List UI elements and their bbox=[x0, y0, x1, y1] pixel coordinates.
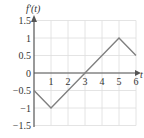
y-tick-label: −1.5 bbox=[13, 120, 31, 131]
y-axis-arrow-icon bbox=[31, 15, 37, 22]
x-tick-label: 4 bbox=[100, 76, 105, 87]
chart: 1234561.510.50−0.5−1−1.5 f'(t) t bbox=[0, 0, 144, 138]
x-axis-label: t bbox=[140, 69, 143, 80]
x-tick-label: 2 bbox=[66, 76, 71, 87]
x-tick-label: 5 bbox=[117, 76, 122, 87]
y-tick-label: 1 bbox=[26, 33, 31, 44]
y-tick-label: 0 bbox=[26, 68, 31, 79]
x-tick-label: 3 bbox=[83, 76, 88, 87]
y-tick-label: 0.5 bbox=[19, 50, 32, 61]
y-tick-label: 1.5 bbox=[19, 15, 32, 26]
y-tick-label: −1 bbox=[20, 103, 31, 114]
y-axis-label: f'(t) bbox=[26, 3, 41, 15]
x-tick-label: 6 bbox=[134, 76, 139, 87]
y-tick-label: −0.5 bbox=[13, 85, 31, 96]
x-tick-label: 1 bbox=[49, 76, 54, 87]
